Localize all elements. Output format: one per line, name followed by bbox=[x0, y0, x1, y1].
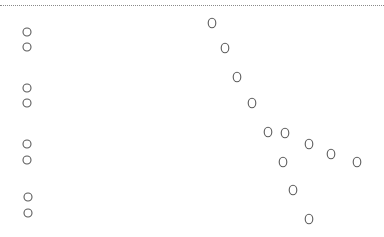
circle-marker bbox=[289, 185, 297, 195]
circle-marker bbox=[279, 157, 287, 167]
radio-button[interactable] bbox=[23, 28, 31, 36]
circle-marker bbox=[305, 214, 313, 224]
circle-marker bbox=[221, 43, 229, 53]
radio-button[interactable] bbox=[24, 209, 32, 217]
circle-canvas bbox=[0, 0, 384, 237]
circle-marker bbox=[353, 157, 361, 167]
circle-marker bbox=[305, 139, 313, 149]
radio-button[interactable] bbox=[23, 140, 31, 148]
radio-button[interactable] bbox=[23, 99, 31, 107]
radio-button[interactable] bbox=[23, 84, 31, 92]
radio-button[interactable] bbox=[23, 43, 31, 51]
circle-marker bbox=[233, 72, 241, 82]
page-fragment bbox=[0, 0, 384, 237]
circle-marker bbox=[208, 18, 216, 28]
circle-marker bbox=[264, 127, 272, 137]
circle-marker bbox=[281, 128, 289, 138]
radio-button[interactable] bbox=[24, 193, 32, 201]
circle-marker bbox=[248, 98, 256, 108]
circle-marker bbox=[327, 149, 335, 159]
radio-button[interactable] bbox=[23, 156, 31, 164]
